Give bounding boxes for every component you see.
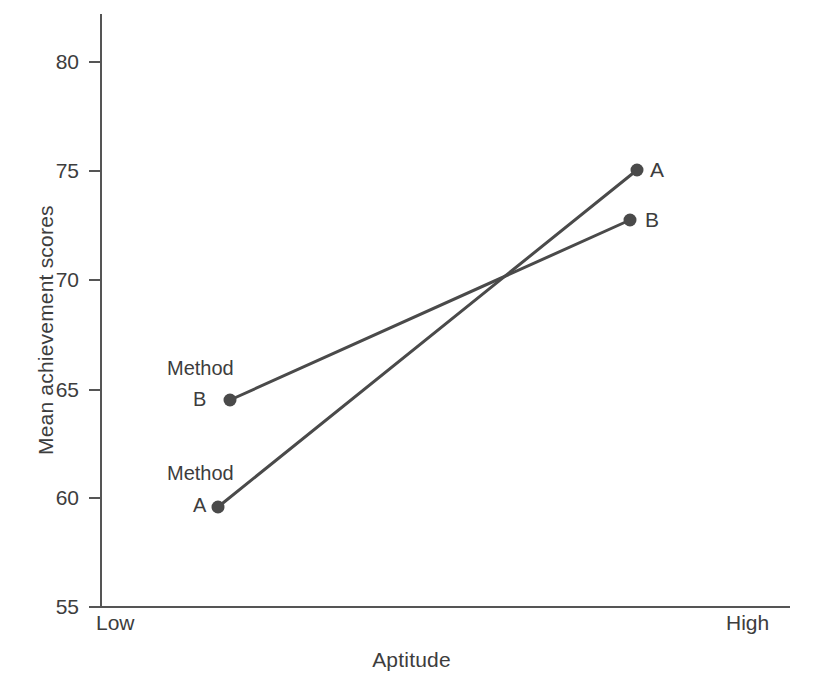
y-tick-label-55: 55 [33, 595, 79, 619]
endpoint-label-method-a: A [650, 158, 664, 182]
data-point-method-b-high [624, 214, 637, 227]
y-axis-title: Mean achievement scores [34, 205, 58, 455]
chart-container: 80 75 70 65 60 55 Low High Mean achievem… [0, 0, 823, 690]
series-line-method-b [230, 220, 630, 400]
y-tick-label-60: 60 [33, 486, 79, 510]
annotation-method-b-letter: B [193, 388, 206, 411]
annotation-method-b-word: Method [167, 357, 234, 380]
data-point-method-b-low [224, 394, 237, 407]
chart-plot-area [0, 0, 823, 690]
data-point-method-a-high [631, 164, 644, 177]
annotation-method-a-letter: A [193, 494, 206, 517]
endpoint-label-method-b: B [645, 208, 659, 232]
data-point-method-a-low [212, 501, 225, 514]
x-tick-label-high: High [726, 611, 769, 635]
series-line-method-a [218, 170, 637, 507]
x-axis-title: Aptitude [0, 648, 823, 672]
annotation-method-a-word: Method [167, 462, 234, 485]
x-tick-label-low: Low [96, 611, 135, 635]
y-tick-label-80: 80 [33, 50, 79, 74]
y-tick-label-75: 75 [33, 159, 79, 183]
